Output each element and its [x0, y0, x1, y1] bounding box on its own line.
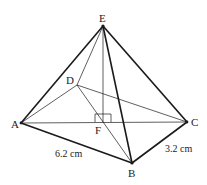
- label-E: E: [99, 12, 106, 24]
- vertex-A: [20, 122, 23, 125]
- vertex-C: [186, 121, 189, 124]
- measurement-AB: 6.2 cm: [55, 148, 82, 159]
- label-C: C: [191, 116, 198, 128]
- edge-EA: [21, 26, 103, 123]
- vertex-B: [130, 161, 133, 164]
- label-F: F: [95, 124, 101, 136]
- pyramid-diagram: E D A C F B 6.2 cm 3.2 cm: [0, 0, 207, 185]
- label-A: A: [11, 118, 19, 130]
- edge-ED: [77, 26, 103, 85]
- label-B: B: [128, 167, 135, 179]
- vertex-E: [101, 24, 104, 27]
- measurement-BC: 3.2 cm: [165, 143, 192, 154]
- label-D: D: [66, 74, 74, 86]
